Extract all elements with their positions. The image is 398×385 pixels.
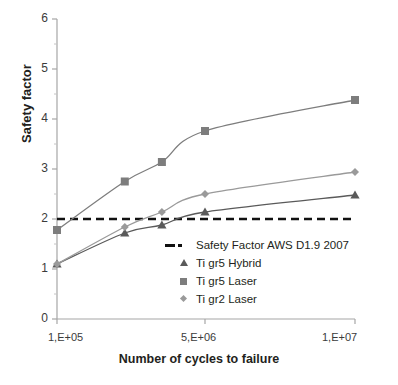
chart-legend: Safety Factor AWS D1.9 2007 Ti gr5 Hybri…: [164, 236, 349, 308]
y-tick-label: 6: [22, 11, 48, 25]
legend-item-ti-gr5-hybrid: Ti gr5 Hybrid: [164, 254, 349, 272]
dashed-line-key: [164, 238, 194, 252]
data-point-ti-gr5-laser-1: [121, 178, 129, 186]
y-tick-label: 1: [22, 261, 48, 275]
legend-label-ti-gr5-hybrid: Ti gr5 Hybrid: [194, 257, 261, 269]
y-tick-label: 4: [22, 111, 48, 125]
diamond-marker-key: [164, 292, 194, 306]
chart-figure: Safety factor Number of cycles to failur…: [0, 0, 398, 385]
data-point-ti-gr5-laser-2: [158, 158, 166, 166]
legend-item-ti-gr5-laser: Ti gr5 Laser: [164, 272, 349, 290]
x-tick-label: 1,E+05: [48, 331, 83, 343]
data-point-ti-gr2-laser-1: [121, 223, 129, 231]
legend-item-reference-line: Safety Factor AWS D1.9 2007: [164, 236, 349, 254]
legend-label-reference-line: Safety Factor AWS D1.9 2007: [194, 239, 349, 251]
data-point-ti-gr2-laser-3: [201, 190, 209, 198]
data-point-ti-gr2-laser-4: [351, 168, 359, 176]
y-tick-label: 5: [22, 61, 48, 75]
data-point-ti-gr5-laser-4: [351, 96, 359, 104]
x-tick-label: 5,E+06: [181, 331, 216, 343]
x-tick-label: 1,E+07: [322, 331, 357, 343]
legend-label-ti-gr2-laser: Ti gr2 Laser: [194, 293, 257, 305]
legend-item-ti-gr2-laser: Ti gr2 Laser: [164, 290, 349, 308]
data-point-ti-gr5-laser-3: [201, 127, 209, 135]
legend-label-ti-gr5-laser: Ti gr5 Laser: [194, 275, 257, 287]
plot-area: [0, 0, 398, 385]
y-tick-label: 2: [22, 211, 48, 225]
data-point-ti-gr5-hybrid-4: [350, 190, 359, 198]
y-tick-label: 0: [22, 311, 48, 325]
y-tick-label: 3: [22, 161, 48, 175]
square-marker-key: [164, 274, 194, 288]
data-point-ti-gr2-laser-2: [158, 208, 166, 216]
triangle-marker-key: [164, 256, 194, 270]
data-point-ti-gr5-laser-0: [53, 226, 61, 234]
